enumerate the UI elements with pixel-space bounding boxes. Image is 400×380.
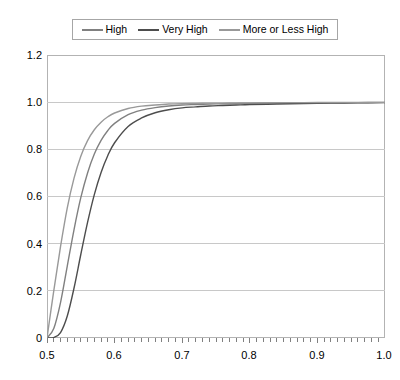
gridlines bbox=[47, 102, 385, 338]
series-line-high bbox=[47, 102, 385, 338]
y-tick-label-0-8: 0.8 bbox=[2, 144, 42, 155]
legend-entry-high[interactable]: High bbox=[82, 24, 128, 35]
legend-entry-very-high[interactable]: Very High bbox=[138, 24, 208, 35]
x-tick-label-0-9: 0.9 bbox=[295, 350, 339, 361]
plot-canvas bbox=[47, 55, 385, 338]
y-tick-label-0: 0 bbox=[2, 333, 42, 344]
y-tick-label-0-2: 0.2 bbox=[2, 286, 42, 297]
series-line-more-or-less-high bbox=[47, 102, 385, 338]
y-tick-label-0-6: 0.6 bbox=[2, 191, 42, 202]
legend-label-high: High bbox=[106, 24, 128, 35]
chart-container: High Very High More or Less High 1.2 1.0… bbox=[0, 0, 400, 380]
x-tick-label-0-6: 0.6 bbox=[92, 350, 136, 361]
legend-label-very-high: Very High bbox=[162, 24, 208, 35]
legend-swatch-more-or-less-high bbox=[219, 29, 240, 31]
legend-label-more-or-less-high: More or Less High bbox=[243, 24, 329, 35]
x-axis-tick-marks bbox=[47, 338, 385, 344]
x-tick-label-0-5: 0.5 bbox=[25, 350, 69, 361]
y-tick-label-1-2: 1.2 bbox=[2, 50, 42, 61]
chart-legend: High Very High More or Less High bbox=[72, 19, 338, 40]
legend-swatch-very-high bbox=[138, 29, 159, 31]
data-curves bbox=[47, 102, 385, 338]
y-tick-label-0-4: 0.4 bbox=[2, 239, 42, 250]
x-tick-label-0-7: 0.7 bbox=[160, 350, 204, 361]
x-tick-label-1-0: 1.0 bbox=[362, 350, 400, 361]
series-line-very-high bbox=[47, 103, 385, 338]
y-tick-label-1-0: 1.0 bbox=[2, 97, 42, 108]
x-tick-label-0-8: 0.8 bbox=[227, 350, 271, 361]
legend-entry-more-or-less-high[interactable]: More or Less High bbox=[219, 24, 329, 35]
legend-swatch-high bbox=[82, 29, 103, 31]
